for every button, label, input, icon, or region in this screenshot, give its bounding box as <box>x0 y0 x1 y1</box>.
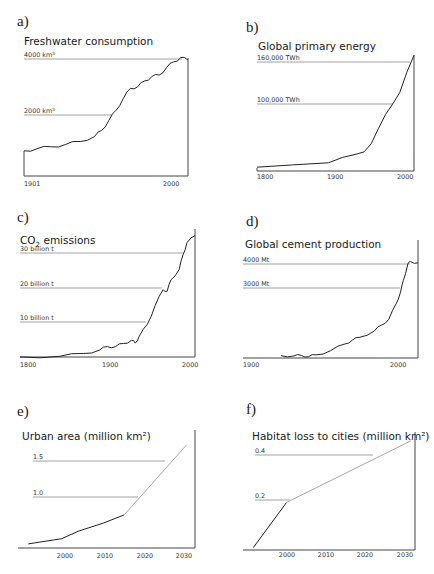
chart-title: Urban area (million km²) <box>22 430 151 442</box>
panel-letter: d) <box>246 213 259 230</box>
chart-title: Freshwater consumption <box>24 35 153 47</box>
panel-f: f)Habitat loss to cities (million km²)0.… <box>243 401 429 559</box>
reference-label: 160,000 TWh <box>257 54 300 62</box>
x-tick-label: 2010 <box>97 552 113 560</box>
x-tick-label: 2000 <box>57 552 73 560</box>
chart-figure: a)Freshwater consumption4000 km³2000 km³… <box>0 0 434 574</box>
x-tick-label: 2020 <box>357 551 373 559</box>
reference-label: 100,000 TWh <box>257 96 300 104</box>
series-projected <box>124 445 187 515</box>
series-observed <box>28 515 124 544</box>
reference-label: 0.4 <box>255 447 265 455</box>
reference-label: 30 billion t <box>20 245 54 253</box>
series-projected <box>287 441 411 503</box>
x-tick-label: 2000 <box>182 361 198 369</box>
x-tick-label: 2030 <box>176 552 192 560</box>
panel-letter: b) <box>246 19 259 36</box>
reference-label: 20 billion t <box>20 280 54 288</box>
panels-group: a)Freshwater consumption4000 km³2000 km³… <box>17 13 429 560</box>
x-tick-label: 2000 <box>397 173 413 181</box>
x-tick-label: 1900 <box>102 361 118 369</box>
reference-label: 2000 km³ <box>24 107 55 115</box>
reference-label: 4000 km³ <box>24 51 55 59</box>
x-tick-label: 2000 <box>390 361 406 369</box>
chart-title: Habitat loss to cities (million km²) <box>252 430 429 442</box>
chart-title: Global primary energy <box>258 40 376 52</box>
x-tick-label: 1900 <box>243 361 259 369</box>
panel-d: d)Global cement production4000 Mt3000 Mt… <box>243 213 418 369</box>
reference-label: 10 billion t <box>20 314 54 322</box>
panel-letter: e) <box>17 403 29 420</box>
data-series <box>24 57 188 151</box>
x-tick-label: 1900 <box>327 173 343 181</box>
chart-title: Global cement production <box>245 238 381 250</box>
panel-letter: f) <box>246 401 256 418</box>
panel-e: e)Urban area (million km²)1.51.020002010… <box>17 403 195 560</box>
reference-label: 3000 Mt <box>243 280 270 288</box>
x-tick-label: 1800 <box>20 361 36 369</box>
reference-label: 1.0 <box>33 489 43 497</box>
x-tick-label: 1800 <box>257 173 273 181</box>
reference-label: 0.2 <box>255 492 265 500</box>
panel-letter: a) <box>17 13 29 30</box>
data-series <box>281 262 418 358</box>
x-tick-label: 2020 <box>137 552 153 560</box>
x-tick-label: 2000 <box>163 180 179 188</box>
panel-b: b)Global primary energy160,000 TWh100,00… <box>246 19 414 181</box>
x-tick-label: 2000 <box>279 551 295 559</box>
data-series <box>257 55 414 167</box>
x-tick-label: 2010 <box>318 551 334 559</box>
x-tick-label: 1901 <box>24 180 40 188</box>
series-observed <box>253 503 286 548</box>
panel-c: c)CO2 emissions30 billion t20 billion t1… <box>17 209 198 369</box>
x-tick-label: 2030 <box>397 551 413 559</box>
reference-label: 4000 Mt <box>243 256 270 264</box>
panel-a: a)Freshwater consumption4000 km³2000 km³… <box>17 13 188 188</box>
panel-letter: c) <box>17 209 29 226</box>
data-series <box>20 236 195 358</box>
reference-label: 1.5 <box>33 453 43 461</box>
